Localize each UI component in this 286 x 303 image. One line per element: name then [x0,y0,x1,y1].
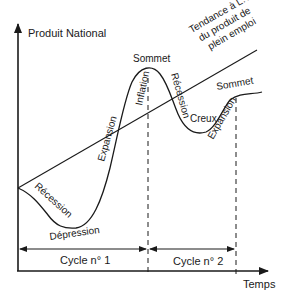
y-axis-label: Produit National [28,27,106,39]
label-recession-1: Récession [33,180,75,219]
label-sommet-1: Sommet [133,53,170,64]
trend-label: Tendance à L.T du produit de plein emplo… [187,0,264,56]
label-sommet-2: Sommet [215,75,254,92]
label-depression: Dépression [49,224,101,242]
cycle-2-label: Cycle n° 2 [173,255,223,267]
business-cycle-diagram: Produit National Temps Tendance à L.T du… [0,0,286,303]
label-recession-2: Récession [169,72,192,120]
cycle-1-label: Cycle n° 1 [60,254,110,266]
x-axis-label: Temps [243,278,276,290]
label-expansion-1: Expansion [95,115,118,163]
